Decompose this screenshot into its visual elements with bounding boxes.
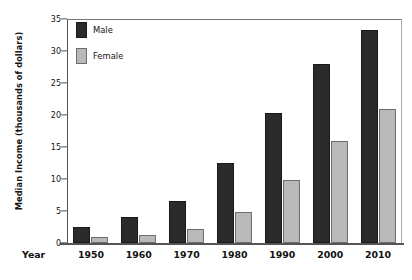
- bar-female-2000: [331, 141, 348, 243]
- y-tick-label: 35: [0, 15, 67, 24]
- bar-female-2010: [379, 109, 396, 243]
- y-tick-mark: [61, 18, 67, 19]
- bar-female-1990: [283, 180, 300, 243]
- bar-female-1950: [91, 237, 108, 243]
- y-axis-title: Median Income (thousands of dollars): [14, 6, 24, 236]
- bar-male-1970: [169, 201, 186, 243]
- legend: MaleFemale: [76, 22, 166, 74]
- bar-male-2010: [361, 30, 378, 243]
- y-tick-label: 0: [0, 239, 67, 248]
- x-axis-title: Year: [22, 249, 45, 260]
- y-tick-mark: [61, 114, 67, 115]
- y-tick-label: 30: [0, 47, 67, 56]
- legend-swatch-female: [76, 48, 87, 64]
- y-tick-mark: [61, 146, 67, 147]
- bar-group: [217, 19, 252, 243]
- legend-label: Male: [93, 25, 113, 35]
- y-tick-mark: [61, 242, 67, 243]
- bar-group: [313, 19, 348, 243]
- legend-label: Female: [93, 51, 123, 61]
- y-tick-label: 5: [0, 207, 67, 216]
- x-axis-line: [60, 243, 404, 245]
- bar-female-1970: [187, 229, 204, 243]
- y-tick-label: 25: [0, 79, 67, 88]
- bar-female-1960: [139, 235, 156, 243]
- legend-item-male: Male: [76, 22, 166, 38]
- y-tick-mark: [61, 82, 67, 83]
- bar-male-2000: [313, 64, 330, 243]
- y-tick-label: 15: [0, 143, 67, 152]
- x-tick-label: 1970: [174, 249, 200, 260]
- x-tick-label: 2010: [365, 249, 391, 260]
- legend-item-female: Female: [76, 48, 166, 64]
- bar-female-1980: [235, 212, 252, 243]
- bar-male-1990: [265, 113, 282, 243]
- y-tick-mark: [61, 210, 67, 211]
- y-tick-mark: [61, 178, 67, 179]
- x-tick-label: 1950: [78, 249, 104, 260]
- bar-group: [169, 19, 204, 243]
- y-tick-label: 20: [0, 111, 67, 120]
- bar-chart: Median Income (thousands of dollars) 051…: [0, 0, 412, 280]
- x-tick-label: 1990: [269, 249, 295, 260]
- bar-male-1950: [73, 227, 90, 243]
- bar-male-1980: [217, 163, 234, 243]
- y-tick-mark: [61, 50, 67, 51]
- bar-group: [265, 19, 300, 243]
- x-tick-label: 1960: [126, 249, 152, 260]
- bar-group: [361, 19, 396, 243]
- bar-male-1960: [121, 217, 138, 243]
- y-tick-label: 10: [0, 175, 67, 184]
- x-tick-label: 1980: [221, 249, 247, 260]
- x-tick-label: 2000: [317, 249, 343, 260]
- legend-swatch-male: [76, 22, 87, 38]
